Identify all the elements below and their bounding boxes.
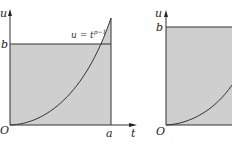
left-origin-label: O [0, 125, 9, 136]
left-axis-y-label: u [0, 8, 7, 19]
curve-equation-exponent: p−1 [94, 28, 107, 35]
right-shaded-region [166, 27, 232, 125]
right-origin-label: O [156, 126, 165, 137]
left-y-axis-arrow-icon [8, 9, 12, 16]
left-a-label: a [106, 128, 113, 139]
right-panel [164, 10, 232, 125]
left-axis-x-label: t [131, 128, 135, 139]
right-b-label: b [156, 22, 163, 33]
right-y-axis-arrow-icon [164, 10, 168, 17]
right-axis-y-label: u [155, 8, 162, 19]
figure-canvas [0, 0, 232, 144]
curve-equation-base: u = t [71, 30, 94, 40]
left-panel [8, 9, 137, 127]
curve-equation-label: u = tp−1 [71, 29, 106, 40]
left-b-label: b [1, 39, 8, 50]
